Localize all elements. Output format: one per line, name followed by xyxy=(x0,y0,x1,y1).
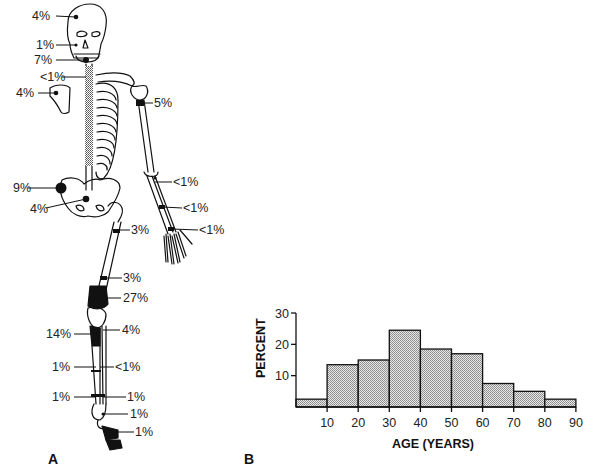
histogram-bars xyxy=(296,330,576,407)
x-tick-label: 20 xyxy=(351,416,365,430)
histogram-bar xyxy=(452,354,483,407)
histogram-bar xyxy=(514,391,545,407)
age-histogram: 102030102030405060708090 PERCENT AGE (YE… xyxy=(0,0,594,466)
histogram-bar xyxy=(327,365,358,407)
x-tick-label: 30 xyxy=(382,416,396,430)
x-tick-label: 10 xyxy=(320,416,334,430)
histogram-bar xyxy=(420,349,451,407)
histogram-bar xyxy=(545,399,576,407)
x-tick-label: 80 xyxy=(538,416,552,430)
histogram-bar xyxy=(296,399,327,407)
histogram-bar xyxy=(389,330,420,407)
x-tick-label: 40 xyxy=(413,416,427,430)
panel-label-b: B xyxy=(244,452,254,466)
y-tick-label: 30 xyxy=(275,307,289,321)
y-axis-title: PERCENT xyxy=(254,318,268,378)
y-tick-label: 10 xyxy=(275,369,289,383)
histogram-bar xyxy=(483,384,514,408)
x-tick-label: 90 xyxy=(569,416,583,430)
x-tick-label: 50 xyxy=(445,416,459,430)
histogram-bar xyxy=(358,360,389,407)
y-tick-label: 20 xyxy=(275,338,289,352)
x-tick-label: 60 xyxy=(476,416,490,430)
x-axis-title: AGE (YEARS) xyxy=(392,437,474,451)
x-tick-label: 70 xyxy=(507,416,521,430)
